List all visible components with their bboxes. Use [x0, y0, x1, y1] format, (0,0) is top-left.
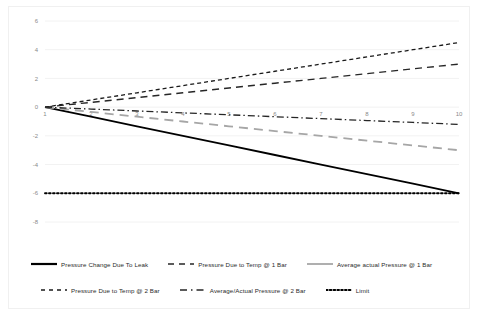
y-axis-tick-label: 6 [35, 18, 39, 24]
x-axis-tick-label: 1 [43, 111, 47, 117]
legend-label: Average actual Pressure @ 1 Bar [337, 261, 432, 268]
legend-item-pressure-due-to-temp-2-bar: Pressure Due to Temp @ 2 Bar [41, 286, 160, 294]
legend-item-limit: Limit [326, 286, 370, 294]
legend-swatch-dash-dot [180, 286, 206, 294]
series-line [45, 107, 459, 124]
y-axis-tick-label: -4 [33, 162, 39, 168]
legend-swatch-dotted [326, 286, 352, 294]
y-axis-tick-label: 0 [35, 104, 39, 110]
legend-label: Pressure Change Due To Leak [61, 261, 148, 268]
x-axis-tick-label: 6 [273, 111, 277, 117]
chart-legend: Pressure Change Due To Leak Pressure Due… [9, 251, 471, 309]
x-axis-tick-label: 8 [365, 111, 369, 117]
x-axis-tick-label: 10 [456, 111, 463, 117]
series-line [45, 107, 459, 193]
x-axis-tick-label: 4 [181, 111, 185, 117]
series-line [45, 107, 459, 150]
legend-swatch-dashed [168, 260, 194, 268]
line-chart-svg: 6420-2-4-6-812345678910 [9, 7, 471, 252]
y-axis-tick-label: -8 [33, 219, 39, 225]
x-axis-tick-label: 5 [227, 111, 231, 117]
y-axis-tick-label: 2 [35, 76, 39, 82]
legend-label: Pressure Due to Temp @ 2 Bar [71, 287, 160, 294]
legend-item-pressure-change-due-to-leak: Pressure Change Due To Leak [31, 260, 148, 268]
legend-row-2: Pressure Due to Temp @ 2 Bar Average/Act… [9, 277, 471, 303]
x-axis-tick-label: 9 [411, 111, 415, 117]
y-axis-tick-label: 4 [35, 47, 39, 53]
x-axis-tick-label: 7 [319, 111, 323, 117]
legend-item-average-actual-pressure-1-bar: Average actual Pressure @ 1 Bar [307, 260, 432, 268]
legend-label: Pressure Due to Temp @ 1 Bar [198, 261, 287, 268]
legend-label: Average/Actual Pressure @ 2 Bar [210, 287, 306, 294]
y-axis-tick-label: -6 [33, 190, 39, 196]
legend-item-average-actual-pressure-2-bar: Average/Actual Pressure @ 2 Bar [180, 286, 306, 294]
chart-container: 6420-2-4-6-812345678910 Pressure Change … [8, 6, 470, 309]
legend-item-pressure-due-to-temp-1-bar: Pressure Due to Temp @ 1 Bar [168, 260, 287, 268]
series-line [45, 43, 459, 108]
series-line [45, 64, 459, 107]
legend-swatch-solid [31, 260, 57, 268]
legend-label: Limit [356, 287, 370, 294]
plot-area: 6420-2-4-6-812345678910 [9, 7, 471, 252]
legend-row-1: Pressure Change Due To Leak Pressure Due… [9, 251, 471, 277]
legend-swatch-fine-dash [41, 286, 67, 294]
y-axis-tick-label: -2 [33, 133, 39, 139]
legend-swatch-long-dash [307, 260, 333, 268]
